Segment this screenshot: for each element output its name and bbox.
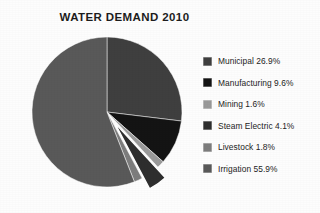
legend-label-municipal: Municipal 26.9%: [218, 56, 280, 66]
legend-label-livestock: Livestock 1.8%: [218, 142, 275, 152]
legend-swatch-manufacturing: [203, 78, 212, 87]
legend-item-steam-electric[interactable]: Steam Electric 4.1%: [203, 117, 320, 135]
legend-item-municipal[interactable]: Municipal 26.9%: [203, 52, 320, 70]
pie-slice-municipal[interactable]: [107, 37, 182, 121]
pie-slice-group: [32, 37, 182, 189]
legend-label-manufacturing: Manufacturing 9.6%: [218, 78, 293, 88]
legend-item-irrigation[interactable]: Irrigation 55.9%: [203, 160, 320, 178]
chart-title: WATER DEMAND 2010: [0, 11, 249, 23]
legend-label-irrigation: Irrigation 55.9%: [218, 164, 277, 174]
legend-swatch-irrigation: [203, 164, 212, 173]
legend-swatch-municipal: [203, 57, 212, 66]
legend-item-mining[interactable]: Mining 1.6%: [203, 95, 320, 113]
pie-chart-figure: WATER DEMAND 2010 Municipal 26.9% Manufa…: [0, 0, 320, 213]
pie-chart-plot: [18, 28, 208, 213]
chart-legend: Municipal 26.9% Manufacturing 9.6% Minin…: [203, 52, 320, 182]
legend-item-livestock[interactable]: Livestock 1.8%: [203, 138, 320, 156]
legend-swatch-mining: [203, 100, 212, 109]
legend-swatch-livestock: [203, 143, 212, 152]
legend-label-mining: Mining 1.6%: [218, 99, 265, 109]
legend-swatch-steam-electric: [203, 121, 212, 130]
legend-label-steam-electric: Steam Electric 4.1%: [218, 121, 294, 131]
legend-item-manufacturing[interactable]: Manufacturing 9.6%: [203, 74, 320, 92]
pie-svg: [18, 28, 208, 213]
